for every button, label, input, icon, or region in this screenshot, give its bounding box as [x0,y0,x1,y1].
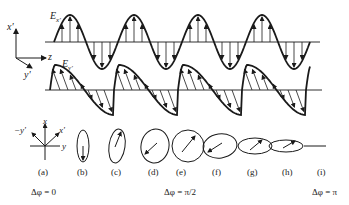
x-prime-axis-2d [45,133,59,146]
wave-ex-label: Ex' [49,10,61,24]
panel-e-circle [172,130,204,162]
x-prime-label-2d: x' [58,125,66,135]
panel-d-ellipse [138,127,171,165]
panel-g-ellipse [238,138,272,154]
panel-b-ellipse [77,130,89,162]
phase-label-pi: Δφ = π [312,187,338,197]
panel-label-c: (c) [111,167,121,177]
panel-label-f: (f) [212,167,221,177]
wave-ex: Ex' [45,10,320,69]
panel-h-ellipse [269,140,303,152]
phase-labels: Δφ = 0 Δφ = π/2 Δφ = π [31,187,338,197]
neg-y-prime-axis-2d [32,133,45,146]
panel-a-axes: x y x' −y' [14,116,66,160]
panel-label-a: (a) [38,167,48,177]
coordinate-axes-3d: x' z y' [6,21,52,80]
panel-label-d: (d) [148,167,159,177]
y-prime-axis [16,58,32,68]
panel-label-g: (g) [247,167,258,177]
z-label: z [47,51,52,62]
panel-label-b: (b) [77,167,88,177]
x-prime-label: x' [6,21,14,32]
y-label: y [61,141,66,151]
wave-ey: Ey' [45,58,322,115]
panel-label-h: (h) [282,167,293,177]
panel-label-i: (i) [317,167,326,177]
y-prime-label: y' [23,69,31,80]
panel-labels: (a) (b) (c) (d) (e) (f) (g) (h) (i) [38,167,326,177]
panel-c-ellipse [107,128,128,164]
neg-y-prime-label-2d: −y' [14,125,27,135]
phase-label-pi-half: Δφ = π/2 [164,187,196,197]
polarization-diagram: x' z y' Ex' Ey' x y x' −y' [0,0,349,205]
panel-f-ellipse [201,132,238,160]
panel-label-e: (e) [176,167,186,177]
phase-label-0: Δφ = 0 [31,187,57,197]
x-label: x [42,116,47,126]
